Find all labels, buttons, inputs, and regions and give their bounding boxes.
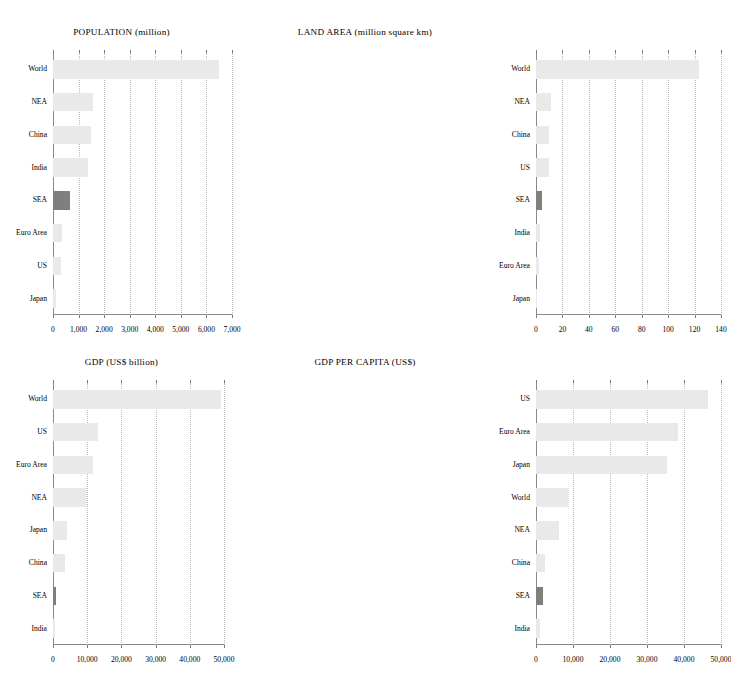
bar (53, 619, 55, 637)
y-axis-category-label: China (243, 131, 530, 139)
bar (53, 289, 56, 307)
x-axis-tick-label: 30,000 (145, 656, 166, 664)
plot-area (53, 53, 232, 315)
y-axis-category-label: SEA (243, 196, 530, 204)
gridline (721, 53, 723, 315)
x-axis-tick-label: 120 (689, 326, 700, 334)
plot-area (53, 383, 224, 645)
bar (536, 257, 539, 275)
x-tick-mark (156, 645, 157, 648)
x-axis-tick-label: 3,000 (121, 326, 138, 334)
chart-panel-population: POPULATION (million) 01,0002,0003,0004,0… (0, 0, 243, 350)
x-axis-tick-label: 5,000 (172, 326, 189, 334)
y-axis-category-label: World (243, 65, 530, 73)
gridline (206, 53, 208, 315)
y-axis-category-label: NEA (243, 526, 530, 534)
x-axis-tick-label: 80 (638, 326, 646, 334)
plot-area (536, 383, 721, 645)
y-axis-category-label: China (243, 559, 530, 567)
y-axis-category-label: US (243, 395, 530, 403)
gridline (642, 53, 644, 315)
gridline (695, 53, 697, 315)
x-tick-mark (53, 50, 54, 53)
x-tick-mark (121, 645, 122, 648)
x-axis-tick-label: 140 (715, 326, 726, 334)
y-axis-category-label: NEA (0, 98, 47, 106)
x-tick-mark (206, 50, 207, 53)
x-tick-mark (536, 315, 537, 318)
chart-title: LAND AREA (million square km) (243, 27, 487, 37)
bar (53, 554, 65, 572)
x-axis-tick-label: 40,000 (674, 656, 695, 664)
x-axis-tick-label: 40,000 (179, 656, 200, 664)
bar (53, 126, 91, 144)
x-tick-mark (589, 50, 590, 53)
x-tick-mark (156, 380, 157, 383)
y-axis-category-label: Japan (243, 461, 530, 469)
x-axis-tick-label: 0 (534, 656, 538, 664)
chart-title: POPULATION (million) (0, 27, 243, 37)
x-tick-mark (642, 315, 643, 318)
x-tick-mark (536, 380, 537, 383)
gridline (684, 383, 686, 645)
x-tick-mark (573, 645, 574, 648)
bar (53, 60, 219, 78)
bar (53, 93, 93, 111)
y-axis-category-label: China (0, 131, 47, 139)
x-tick-mark (224, 380, 225, 383)
x-tick-mark (53, 315, 54, 318)
x-axis-tick-label: 6,000 (198, 326, 215, 334)
bar (53, 423, 98, 441)
gridline (130, 53, 132, 315)
x-axis-tick-label: 100 (662, 326, 673, 334)
bar (536, 126, 549, 144)
x-tick-mark (206, 315, 207, 318)
gridline (104, 53, 106, 315)
x-tick-mark (155, 50, 156, 53)
x-tick-mark (536, 645, 537, 648)
bar (536, 93, 551, 111)
bar (53, 224, 62, 242)
x-tick-mark (181, 315, 182, 318)
gridline (615, 53, 617, 315)
x-tick-mark (155, 315, 156, 318)
y-axis-category-label: Japan (243, 295, 530, 303)
x-tick-mark (53, 380, 54, 383)
x-axis-tick-label: 20 (559, 326, 567, 334)
gridline (224, 383, 226, 645)
x-tick-mark (684, 645, 685, 648)
y-axis-category-label: World (0, 395, 47, 403)
y-axis-category-label: Japan (0, 526, 47, 534)
bar (53, 488, 87, 506)
x-tick-mark (562, 315, 563, 318)
x-tick-mark (190, 380, 191, 383)
bar (53, 158, 88, 176)
gridline (232, 53, 234, 315)
chart-panel-land-area: LAND AREA (million square km) 0204060801… (243, 0, 487, 350)
bar (536, 554, 545, 572)
x-axis-tick-label: 30,000 (637, 656, 658, 664)
y-axis-category-label: India (243, 229, 530, 237)
x-tick-mark (721, 645, 722, 648)
x-axis-tick-label: 50,000 (214, 656, 235, 664)
chart-title: GDP PER CAPITA (US$) (243, 357, 487, 367)
gridline (155, 53, 157, 315)
y-axis-category-label: SEA (0, 196, 47, 204)
x-tick-mark (79, 50, 80, 53)
bar (536, 423, 678, 441)
y-axis-category-label: Japan (0, 295, 47, 303)
x-tick-mark (610, 380, 611, 383)
gridline (156, 383, 158, 645)
y-axis-category-label: US (0, 262, 47, 270)
y-axis-category-label: Euro Area (0, 229, 47, 237)
y-axis-category-label: SEA (0, 592, 47, 600)
x-tick-mark (695, 315, 696, 318)
bar (536, 191, 542, 209)
gridline (562, 53, 564, 315)
x-axis-tick-label: 10,000 (77, 656, 98, 664)
x-axis-tick-label: 20,000 (600, 656, 621, 664)
x-tick-mark (610, 645, 611, 648)
bar (536, 619, 540, 637)
y-axis-category-label: NEA (0, 494, 47, 502)
